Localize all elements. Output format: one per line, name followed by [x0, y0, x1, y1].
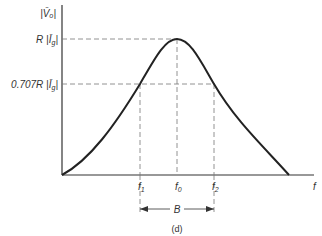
x-tick-f1: f1	[138, 181, 145, 193]
resonance-diagram: |V̄ₒ| R |Īg| 0.707R |Īg| f1 f0 f2 f B (d…	[0, 0, 322, 236]
x-tick-f2: f2	[212, 181, 219, 193]
bandwidth-label: B	[174, 204, 181, 215]
x-axis-label: f	[313, 181, 317, 192]
resonance-curve	[62, 39, 289, 175]
x-tick-f0: f0	[175, 181, 182, 193]
y-tick-peak: R |Īg|	[36, 34, 58, 47]
figure-caption: (d)	[172, 224, 183, 234]
y-tick-halfpower: 0.707R |Īg|	[11, 79, 58, 92]
y-axis-label: |V̄ₒ|	[40, 7, 56, 19]
